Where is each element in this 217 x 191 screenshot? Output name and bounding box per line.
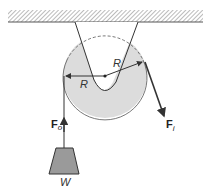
radius-label-right: R (113, 57, 121, 69)
pulley (63, 22, 147, 120)
ceiling (8, 10, 203, 22)
force-in-arrow (145, 62, 164, 116)
force-in-label: Fi (166, 118, 175, 133)
weight-block (49, 148, 79, 174)
weight-label: W (60, 176, 72, 188)
pulley-diagram: R R Fo Fi W (0, 0, 217, 191)
radius-label-left: R (80, 78, 88, 90)
force-out-label: Fo (51, 118, 63, 132)
